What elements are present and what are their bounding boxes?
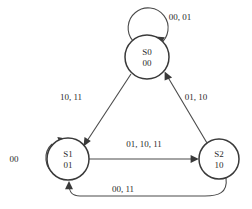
transition-label-s2-s0: 01, 10 [185,92,208,102]
fsm-canvas: 00, 01 10, 11 01, 10 01, 10, 11 00 [0,0,252,209]
edge-line-s2-s1 [69,178,226,196]
state-encoding-s1: 01 [64,160,73,170]
transition-label-s1-self: 00 [10,154,20,164]
state-circle-s1[interactable] [47,138,89,180]
transition-s2-to-s0: 01, 10 [165,72,208,143]
state-node-s1[interactable]: S1 01 [47,138,89,180]
transition-label-s0-s1: 10, 11 [60,92,82,102]
transition-label-s2-s1: 00, 11 [112,184,134,194]
state-name-s2: S2 [214,149,224,159]
state-name-s1: S1 [63,149,73,159]
state-node-s0[interactable]: S0 00 [125,35,169,79]
state-diagram: 00, 01 10, 11 01, 10 01, 10, 11 00 [0,0,252,209]
transition-label-s1-s2: 01, 10, 11 [126,139,162,149]
arrow-head-s2-s0 [165,72,173,81]
arrow-head-s1-s2 [191,155,199,163]
state-circle-s2[interactable] [199,139,239,179]
transition-s2-to-s1: 00, 11 [65,178,226,196]
state-name-s0: S0 [142,47,152,57]
edge-line-s0-s1 [85,74,131,144]
state-encoding-s0: 00 [143,58,153,68]
state-encoding-s2: 10 [215,160,225,170]
transition-s0-to-s1: 10, 11 [60,74,131,146]
state-circle-s0[interactable] [125,35,169,79]
transition-label-s0-self: 00, 01 [169,12,192,22]
transition-s1-to-s2: 01, 10, 11 [89,139,199,163]
state-node-s2[interactable]: S2 10 [199,139,239,179]
arrow-head-s2-s1 [65,181,73,189]
edge-line-s2-s0 [166,74,207,143]
